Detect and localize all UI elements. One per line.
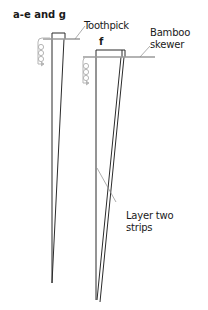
layer-strips-leader xyxy=(97,168,116,202)
diagram-title: a-e and g xyxy=(13,9,66,20)
layer-strips-label: Layer two strips xyxy=(126,210,173,234)
coil-arrow-icon xyxy=(38,38,50,66)
coil-arrow-icon xyxy=(83,57,95,85)
toothpick-label: Toothpick xyxy=(84,20,129,31)
bamboo-skewer-label: Bamboo skewer xyxy=(150,27,190,51)
right-strip-assembly xyxy=(83,46,155,302)
variant-f-label: f xyxy=(99,36,103,47)
left-strip-assembly xyxy=(43,26,85,283)
bamboo-skewer-leader xyxy=(140,46,150,57)
assembly-diagram: a-e and g Toothpick f Bamboo skewer Laye… xyxy=(0,0,208,310)
